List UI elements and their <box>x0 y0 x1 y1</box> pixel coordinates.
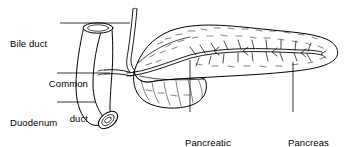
pancreas-gland-shape <box>134 25 338 108</box>
label-pancreatic-duct: Pancreatic duct <box>185 114 231 147</box>
label-common-duct-line-1: Common <box>8 78 88 90</box>
anatomy-diagram: Bile duct Common duct Duodenum Pancreati… <box>0 0 353 147</box>
label-bile-duct-line-1: Bile duct <box>10 38 47 50</box>
label-duodenum-line-1: Duodenum <box>10 117 57 129</box>
bile-duct-shape <box>127 8 137 72</box>
label-pancreas-gland: Pancreas gland <box>288 114 329 147</box>
label-pancreatic-duct-line-1: Pancreatic <box>185 137 231 147</box>
label-duodenum: Duodenum <box>10 94 57 147</box>
label-pancreas-gland-line-1: Pancreas <box>288 137 329 147</box>
